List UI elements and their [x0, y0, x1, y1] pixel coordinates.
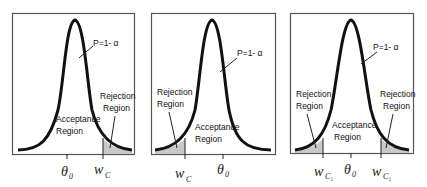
tick-w: w — [175, 166, 185, 181]
rejection-left-label-1: Rejection — [296, 89, 332, 99]
tick-w1-sub: C₁ — [325, 172, 333, 181]
acceptance-label-1: Acceptance — [56, 114, 101, 124]
chart-right-tailed: P=1- α Acceptance Region Rejection Regio… — [0, 0, 145, 187]
acceptance-label-2: Region — [195, 134, 222, 144]
chart-two-tailed: P=1- α Acceptance Region Rejection Regio… — [285, 0, 427, 187]
acceptance-label-2: Region — [334, 132, 361, 142]
normal-curve — [295, 20, 409, 150]
tick-theta: θ — [217, 162, 224, 177]
probability-label: P=1- α — [373, 42, 399, 52]
acceptance-label-1: Acceptance — [332, 120, 377, 130]
rejection-right-label-1: Rejection — [380, 89, 416, 99]
rejection-left-label-2: Region — [296, 101, 323, 111]
tick-w-sub: C — [186, 175, 192, 184]
tick-theta-sub: 0 — [69, 172, 73, 181]
tick-w-sub: C — [105, 171, 111, 180]
rejection-label-1: Rejection — [100, 91, 136, 101]
acceptance-label-2: Region — [56, 126, 83, 136]
tick-theta: θ — [344, 162, 351, 177]
probability-label: P=1- α — [237, 48, 263, 58]
rejection-right-label-2: Region — [383, 101, 410, 111]
tick-w2: w — [372, 164, 382, 179]
acceptance-label-1: Acceptance — [195, 122, 240, 132]
probability-label: P=1- α — [93, 38, 119, 48]
rejection-label-2: Region — [103, 103, 130, 113]
tick-w: w — [94, 162, 104, 177]
tick-theta-sub: 0 — [352, 170, 356, 179]
chart-left-tailed: P=1- α Acceptance Region Rejection Regio… — [145, 0, 285, 187]
tick-theta-sub: 0 — [225, 170, 229, 179]
rejection-label-2: Region — [157, 99, 184, 109]
tick-w1: w — [314, 164, 324, 179]
rejection-label-1: Rejection — [157, 87, 193, 97]
tick-theta: θ — [61, 164, 68, 179]
tick-w2-sub: C₁ — [383, 172, 391, 181]
